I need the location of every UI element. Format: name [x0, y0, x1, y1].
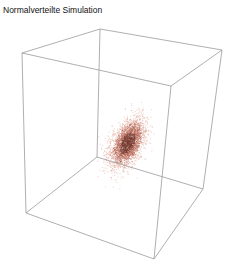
cube-edge: [22, 29, 100, 53]
point-cloud: [98, 102, 155, 190]
cube-edge: [97, 29, 100, 157]
cube-edge: [171, 50, 222, 86]
cube-edge: [22, 53, 171, 86]
cube-edge: [154, 189, 203, 259]
3d-scatter-plot[interactable]: [0, 0, 231, 263]
cube-edge: [22, 53, 26, 213]
cube-edge: [154, 86, 171, 259]
cube-edge: [97, 157, 203, 189]
cube-edge: [100, 29, 222, 50]
cube-edge: [26, 213, 154, 259]
cube-edge: [203, 50, 222, 189]
cube-edge: [26, 157, 97, 213]
